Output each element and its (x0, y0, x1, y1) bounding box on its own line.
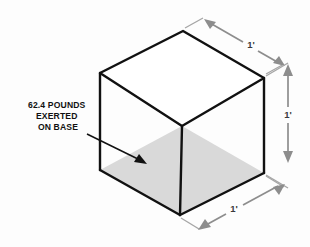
figure-root: 1' 1' 1' 62.4 POUNDS EXERTED (0, 0, 310, 247)
dim-top-ext-left (185, 18, 203, 28)
dim-bottom-label: 1' (230, 203, 238, 214)
weight-callout: 62.4 POUNDS EXERTED ON BASE (28, 100, 147, 164)
dim-top-arrow-start (204, 19, 216, 29)
dim-top-arrow-end (273, 56, 285, 66)
callout-line-3: ON BASE (38, 122, 78, 132)
callout-text-block: 62.4 POUNDS EXERTED ON BASE (28, 100, 88, 132)
callout-line-1: 62.4 POUNDS (28, 100, 86, 110)
dim-top-line-a (210, 23, 243, 42)
dim-right-label: 1' (284, 109, 292, 120)
dim-top-label: 1' (247, 39, 255, 50)
dim-top-ext-right (266, 64, 284, 74)
callout-line-2: EXERTED (36, 111, 78, 121)
dimension-right: 1' (266, 63, 293, 188)
cube-diagram: 1' 1' 1' 62.4 POUNDS EXERTED (0, 0, 310, 247)
dim-bottom-line-b (243, 186, 278, 205)
dim-right-arrow-bottom (283, 151, 293, 163)
dim-bottom-arrow-start (198, 219, 211, 230)
dim-bottom-line-a (206, 214, 226, 225)
dim-bottom-ext-left (181, 218, 199, 229)
dim-bottom-arrow-end (273, 184, 285, 195)
cube-top-face (100, 31, 264, 126)
callout-leader-line (87, 134, 142, 161)
